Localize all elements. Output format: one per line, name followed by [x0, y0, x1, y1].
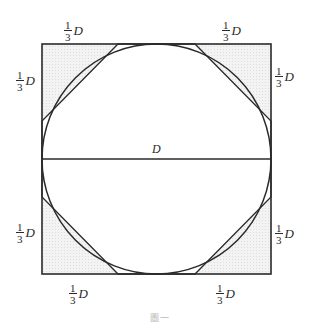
- label-top-right: 1 3 D: [222, 20, 241, 42]
- diameter-label: D: [152, 142, 161, 157]
- fraction: 1 3: [222, 20, 230, 42]
- fraction: 1 3: [69, 283, 77, 305]
- fraction: 1 3: [16, 222, 24, 244]
- label-left-bottom: 1 3 D: [16, 222, 35, 244]
- fraction: 1 3: [275, 66, 283, 88]
- label-bottom-right: 1 3 D: [216, 283, 235, 305]
- fraction: 1 3: [275, 223, 283, 245]
- fraction: 1 3: [16, 70, 24, 92]
- square-circle-octagon-diagram: [0, 0, 313, 332]
- label-bottom-left: 1 3 D: [69, 283, 88, 305]
- label-right-bottom: 1 3 D: [275, 223, 294, 245]
- label-left-top: 1 3 D: [16, 70, 35, 92]
- figure-caption: 圖一: [150, 311, 170, 324]
- label-top-left: 1 3 D: [64, 20, 83, 42]
- fraction: 1 3: [64, 20, 72, 42]
- label-right-top: 1 3 D: [275, 66, 294, 88]
- fraction: 1 3: [216, 283, 224, 305]
